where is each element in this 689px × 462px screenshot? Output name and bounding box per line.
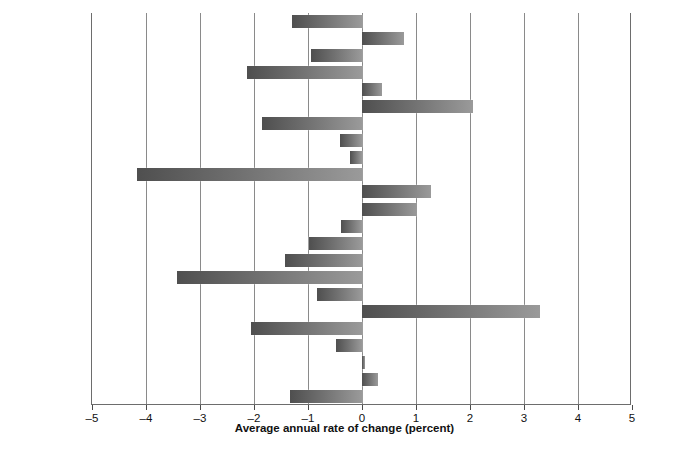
bar [362, 185, 431, 198]
bar [362, 356, 365, 369]
axis-right-spine [630, 13, 631, 404]
x-axis-tick [254, 405, 255, 410]
gridline [146, 13, 147, 404]
bar [290, 390, 362, 403]
x-axis-tick [632, 405, 633, 410]
bar [309, 237, 362, 250]
bar [137, 168, 362, 181]
plot-area: –5–4–3–2–1012345AustraliaAustriaBelgiumC… [91, 13, 631, 405]
x-axis-tick [146, 405, 147, 410]
bar [262, 117, 362, 130]
x-axis-tick [308, 405, 309, 410]
bar [292, 15, 362, 28]
gridline [200, 13, 201, 404]
bar [350, 151, 362, 164]
bar [251, 322, 362, 335]
x-axis-title: Average annual rate of change (percent) [0, 422, 689, 434]
bar [336, 339, 362, 352]
gridline [470, 13, 471, 404]
x-axis-tick [578, 405, 579, 410]
bar [362, 373, 378, 386]
x-axis-tick [416, 405, 417, 410]
bar [362, 305, 540, 318]
x-axis-tick [524, 405, 525, 410]
bar [317, 288, 362, 301]
bar [311, 49, 362, 62]
bar [177, 271, 362, 284]
bar [362, 203, 417, 216]
x-axis-tick [92, 405, 93, 410]
bar-chart: –5–4–3–2–1012345AustraliaAustriaBelgiumC… [0, 0, 689, 462]
bar [247, 66, 362, 79]
gridline [524, 13, 525, 404]
bar [362, 100, 473, 113]
bar [362, 83, 382, 96]
x-axis-tick [200, 405, 201, 410]
x-axis-tick [362, 405, 363, 410]
bar [340, 134, 362, 147]
bar [341, 220, 362, 233]
x-axis-tick [470, 405, 471, 410]
bar [362, 32, 404, 45]
bar [285, 254, 362, 267]
gridline [578, 13, 579, 404]
